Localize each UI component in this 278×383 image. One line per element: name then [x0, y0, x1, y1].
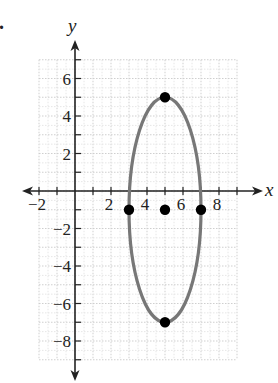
y-tick-label: 4 — [63, 107, 72, 126]
problem-marker: . — [0, 11, 4, 33]
x-axis-label: x — [264, 179, 274, 200]
ellipse-graph: −22468642−2−4−6−8 x y . — [0, 0, 278, 383]
y-tick-label: −2 — [53, 220, 71, 239]
y-tick-label: −8 — [53, 332, 71, 351]
y-axis-label: y — [66, 15, 77, 36]
x-tick-label: −2 — [28, 195, 46, 214]
x-tick-label: 6 — [177, 195, 186, 214]
x-tick-label: 8 — [213, 195, 222, 214]
x-tick-label: 4 — [141, 195, 150, 214]
grid — [39, 60, 237, 360]
point-top-vertex — [160, 92, 170, 102]
y-tick-label: −6 — [53, 295, 71, 314]
x-tick-label: 2 — [105, 195, 114, 214]
point-bottom-vertex — [160, 317, 170, 327]
y-tick-label: −4 — [53, 257, 72, 276]
y-tick-label: 6 — [63, 70, 72, 89]
y-tick-label: 2 — [63, 145, 72, 164]
point-right-co-vertex — [196, 205, 206, 215]
point-center — [160, 205, 170, 215]
point-left-co-vertex — [124, 205, 134, 215]
